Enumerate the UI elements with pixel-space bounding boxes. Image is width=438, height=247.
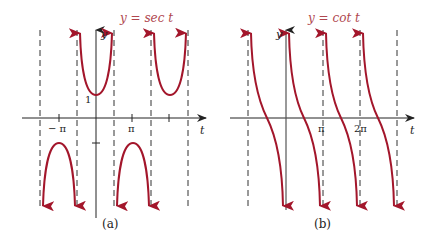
asymptotes xyxy=(40,30,188,210)
caption-a: (a) xyxy=(102,217,119,231)
x-axis-label-a: t xyxy=(200,124,205,137)
y-tick-label-1: 1 xyxy=(85,94,91,105)
caption-b: (b) xyxy=(314,217,331,231)
chart-title-a: y = sec t xyxy=(119,11,173,25)
trig-graphs-figure: y = sec t y t 1 − π π (a) y = cot t y t … xyxy=(0,0,438,247)
panel-cot: y = cot t y t π 2π (b) xyxy=(230,11,415,231)
tick-label-2pi: 2π xyxy=(354,123,367,134)
chart-title-b: y = cot t xyxy=(307,11,360,25)
tick-label-pi-b: π xyxy=(318,123,325,134)
y-axis-label-a: y xyxy=(100,28,108,41)
tick-label-neg-pi: − π xyxy=(48,123,67,134)
x-axis-label-b: t xyxy=(410,124,415,137)
asymptotes xyxy=(248,30,397,210)
panel-sec: y = sec t y t 1 − π π (a) xyxy=(22,11,206,231)
tick-label-pi-a: π xyxy=(128,123,135,134)
y-axis-label-b: y xyxy=(275,28,283,41)
